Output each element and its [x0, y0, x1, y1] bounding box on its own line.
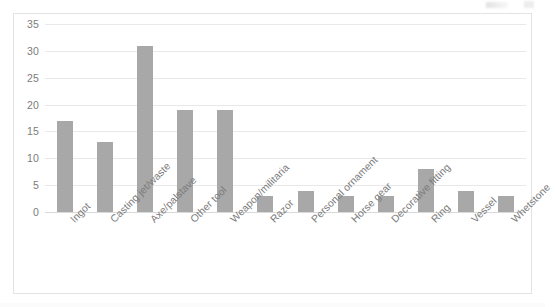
scan-artifact-top-right	[486, 2, 508, 8]
bars	[45, 24, 526, 212]
y-axis-tick-label: 20	[27, 99, 39, 111]
bar	[97, 142, 113, 212]
y-axis-tick-label: 0	[33, 206, 39, 218]
y-axis-tick-label: 25	[27, 72, 39, 84]
plot-area: 05101520253035	[45, 24, 526, 212]
x-axis-labels: IngotCasting jet/wasteAxe/palstaveOther …	[45, 217, 526, 307]
y-axis-tick-label: 10	[27, 152, 39, 164]
y-axis-tick-label: 35	[27, 18, 39, 30]
bar	[298, 191, 314, 212]
y-axis-tick-label: 15	[27, 125, 39, 137]
y-axis-tick-label: 30	[27, 45, 39, 57]
y-axis-tick-label: 5	[33, 179, 39, 191]
bar	[458, 191, 474, 212]
bar	[57, 121, 73, 212]
bar-chart-frame: 05101520253035 IngotCasting jet/wasteAxe…	[13, 13, 532, 294]
scan-artifact-top-right-secondary	[524, 1, 534, 8]
